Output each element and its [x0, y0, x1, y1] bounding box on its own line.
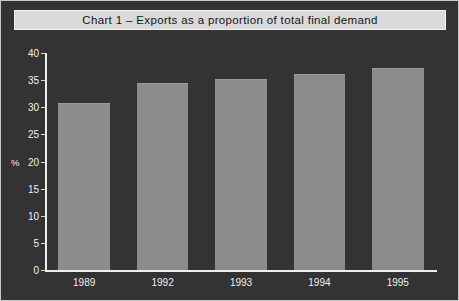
y-axis-tick-mark: [41, 216, 45, 217]
y-axis-tick-mark: [41, 162, 45, 163]
bar: [372, 68, 424, 270]
x-axis-tick-label: 1995: [387, 277, 409, 288]
x-axis-tick-label: 1992: [151, 277, 173, 288]
y-axis-tick-label: 25: [17, 129, 39, 140]
y-axis-tick-mark: [41, 189, 45, 190]
y-axis-tick-mark: [41, 243, 45, 244]
y-axis-unit-label: %: [11, 156, 19, 167]
chart-title: Chart 1 – Exports as a proportion of tot…: [82, 14, 377, 26]
chart-screenshot: Chart 1 – Exports as a proportion of tot…: [0, 0, 459, 301]
y-axis-tick-label: 0: [17, 265, 39, 276]
bar: [137, 83, 189, 270]
y-axis-tick-label: 35: [17, 75, 39, 86]
y-axis-tick-mark: [41, 134, 45, 135]
chart-footnote: [13, 294, 448, 301]
y-axis-tick-label: 15: [17, 183, 39, 194]
bar: [58, 103, 110, 270]
x-axis-tick-label: 1989: [73, 277, 95, 288]
y-axis-tick-label: 40: [17, 48, 39, 59]
chart-title-banner: Chart 1 – Exports as a proportion of tot…: [14, 10, 446, 30]
y-axis-line: [45, 53, 47, 272]
y-axis-tick-mark: [41, 53, 45, 54]
bar: [215, 79, 267, 270]
y-axis-tick-mark: [41, 80, 45, 81]
y-axis-tick-label: 5: [17, 237, 39, 248]
x-axis-tick-label: 1993: [230, 277, 252, 288]
y-axis-tick-label: 10: [17, 210, 39, 221]
x-axis-tick-label: 1994: [308, 277, 330, 288]
y-axis-tick-label: 20: [17, 156, 39, 167]
y-axis-tick-mark: [41, 270, 45, 271]
plot-area: [45, 53, 437, 272]
y-axis-tick-mark: [41, 107, 45, 108]
y-axis-tick-label: 30: [17, 102, 39, 113]
bar: [294, 74, 346, 270]
x-axis-line: [45, 270, 437, 272]
